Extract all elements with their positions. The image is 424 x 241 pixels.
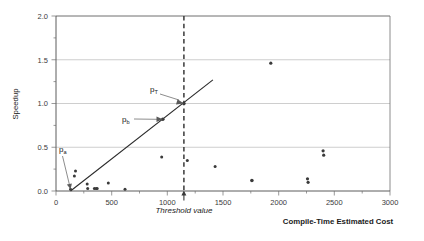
y-tick-label: 0.5 <box>38 143 48 152</box>
x-axis-tick-labels: 0 500 1000 1500 2000 2500 3000 <box>54 198 398 207</box>
data-point <box>322 154 325 157</box>
data-point <box>306 177 309 180</box>
y-tick-label: 2.0 <box>38 12 48 21</box>
y-axis-title: Speedup <box>11 88 20 120</box>
data-point <box>73 175 76 178</box>
x-tick-label: 2000 <box>270 198 287 207</box>
data-point <box>107 182 110 185</box>
data-point <box>86 187 89 190</box>
y-tick-label: 1.0 <box>38 99 48 108</box>
x-tick-label: 1500 <box>215 198 232 207</box>
threshold-value-label: Threshold value <box>155 206 212 215</box>
data-point <box>186 159 189 162</box>
x-tick-label: 500 <box>105 198 118 207</box>
x-axis-title: Compile-Time Estimated Cost <box>283 217 394 226</box>
data-point <box>124 188 127 191</box>
y-tick-label: 0.0 <box>38 187 48 196</box>
y-tick-label: 1.5 <box>38 56 48 65</box>
data-point <box>307 181 310 184</box>
data-point <box>96 187 99 190</box>
data-point <box>86 183 89 186</box>
chart-figure: 2.0 1.5 1.0 0.5 0.0 0 500 1000 <box>0 0 424 241</box>
data-point <box>214 165 217 168</box>
x-axis-ticks <box>56 191 390 196</box>
scatter-chart-svg: 2.0 1.5 1.0 0.5 0.0 0 500 1000 <box>0 0 424 241</box>
x-tick-label: 3000 <box>382 198 399 207</box>
y-axis-tick-labels: 2.0 1.5 1.0 0.5 0.0 <box>38 12 48 196</box>
data-point <box>74 169 77 172</box>
data-point <box>269 62 272 65</box>
data-point <box>322 149 325 152</box>
x-tick-label: 0 <box>54 198 58 207</box>
x-tick-label: 2500 <box>326 198 343 207</box>
data-point <box>160 155 163 158</box>
y-axis-ticks <box>52 16 57 191</box>
data-point <box>250 179 254 183</box>
